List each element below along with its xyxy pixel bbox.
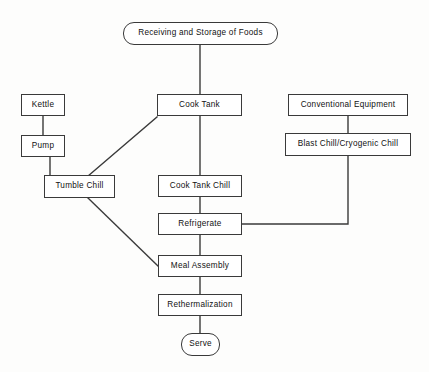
node-meal-assembly[interactable]: Meal Assembly: [158, 255, 242, 277]
node-label: Refrigerate: [175, 220, 224, 228]
flowchart-canvas: Receiving and Storage of Foods Kettle Co…: [0, 0, 429, 372]
node-pump[interactable]: Pump: [21, 135, 65, 157]
node-blast-chill-cryogenic-chill[interactable]: Blast Chill/Cryogenic Chill: [285, 133, 411, 156]
node-cook-tank-chill[interactable]: Cook Tank Chill: [158, 175, 242, 197]
node-cook-tank[interactable]: Cook Tank: [157, 94, 242, 116]
edge-tumble-chill-to-meal-assembly: [88, 198, 158, 266]
node-label: Rethermalization: [164, 301, 235, 309]
node-label: Serve: [186, 340, 215, 348]
node-rethermalization[interactable]: Rethermalization: [158, 294, 242, 316]
node-label: Tumble Chill: [52, 182, 106, 190]
node-label: Blast Chill/Cryogenic Chill: [295, 140, 401, 148]
node-label: Conventional Equipment: [298, 101, 399, 109]
edge-cook-tank-to-tumble-chill: [88, 117, 157, 176]
node-tumble-chill[interactable]: Tumble Chill: [44, 175, 115, 198]
node-kettle[interactable]: Kettle: [21, 94, 65, 116]
node-label: Receiving and Storage of Foods: [135, 29, 265, 37]
node-label: Cook Tank: [176, 101, 223, 109]
node-label: Cook Tank Chill: [167, 182, 233, 190]
node-label: Meal Assembly: [168, 262, 232, 270]
node-label: Pump: [29, 142, 57, 150]
node-refrigerate[interactable]: Refrigerate: [158, 213, 242, 235]
node-receiving-and-storage-of-foods[interactable]: Receiving and Storage of Foods: [123, 22, 278, 45]
edge-blast-chill-to-refrigerate: [242, 156, 348, 224]
node-conventional-equipment[interactable]: Conventional Equipment: [288, 94, 408, 116]
node-label: Kettle: [29, 101, 57, 109]
node-serve[interactable]: Serve: [181, 333, 220, 356]
